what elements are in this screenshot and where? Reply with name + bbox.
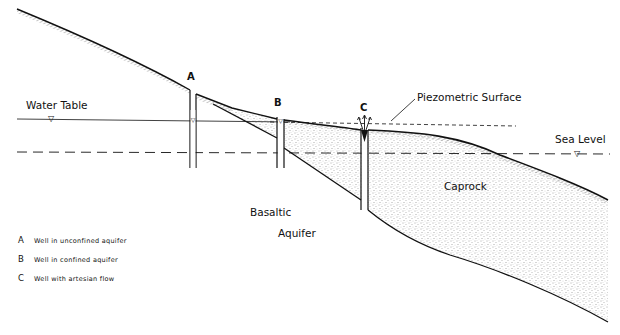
aquifer-label: Aquifer <box>278 227 316 239</box>
piezometric-surface-label: Piezometric Surface <box>417 91 522 103</box>
legend: A Well in unconfined aquifer B Well in c… <box>18 235 127 283</box>
legend-letter-a: A <box>18 235 24 245</box>
sea-level-label: Sea Level <box>555 133 606 145</box>
ground-hatch-mid <box>196 95 232 112</box>
well-c-label: C <box>360 102 367 113</box>
well-a: ▽ <box>190 90 196 168</box>
legend-letter-c: C <box>18 273 24 283</box>
caprock-label: Caprock <box>444 180 488 192</box>
well-b-label: B <box>274 97 282 108</box>
sea-level-marker-icon: ▽ <box>574 149 581 158</box>
well-b: ▽ <box>277 117 284 168</box>
piezometric-leader-line <box>391 99 415 121</box>
water-table-label: Water Table <box>26 99 88 111</box>
water-table-marker-icon: ▽ <box>48 114 55 123</box>
artesian-flow-arrows-icon <box>358 115 372 130</box>
legend-text-a: Well in unconfined aquifer <box>34 237 127 245</box>
aquifer-cross-section-diagram: ▽ A ▽ B C Water Table ▽ Piezometric Surf… <box>0 0 620 335</box>
well-a-label: A <box>187 71 195 82</box>
ground-hatch-upper <box>17 9 190 94</box>
legend-text-b: Well in confined aquifer <box>34 256 118 264</box>
legend-letter-b: B <box>18 254 24 264</box>
water-level-marker-icon: ▽ <box>191 116 196 123</box>
basaltic-label: Basaltic <box>250 206 291 218</box>
water-level-marker-icon: ▽ <box>278 117 283 124</box>
legend-text-c: Well with artesian flow <box>34 275 115 283</box>
